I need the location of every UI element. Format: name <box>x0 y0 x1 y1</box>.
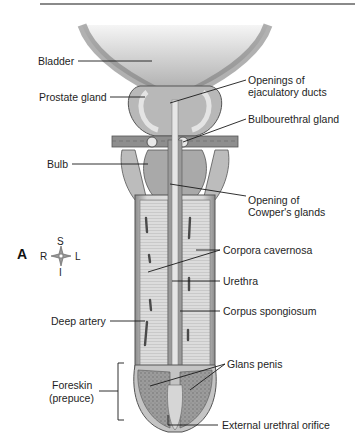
compass-right: R <box>40 251 47 262</box>
label-corpus-spongiosum: Corpus spongiosum <box>223 305 316 317</box>
compass-superior: S <box>57 236 64 247</box>
label-glans-penis: Glans penis <box>227 358 282 370</box>
label-corpora-cavernosa: Corpora cavernosa <box>223 244 312 256</box>
label-ejaculatory-ducts-1: Openings of <box>248 74 305 86</box>
label-cowper-1: Opening of <box>248 194 299 206</box>
label-urethra: Urethra <box>223 275 258 287</box>
orientation-compass <box>51 246 71 266</box>
label-foreskin-2: (prepuce) <box>49 392 94 404</box>
label-bladder: Bladder <box>38 55 74 67</box>
label-cowper-2: Cowper's glands <box>248 206 325 218</box>
panel-letter: A <box>17 246 27 262</box>
label-foreskin-1: Foreskin <box>52 379 92 391</box>
label-deep-artery: Deep artery <box>51 315 106 327</box>
label-bulbourethral-gland: Bulbourethral gland <box>248 113 339 125</box>
label-external-urethral-orifice: External urethral orifice <box>222 419 330 431</box>
compass-left: L <box>75 251 81 262</box>
label-bulb: Bulb <box>47 158 68 170</box>
label-prostate-gland: Prostate gland <box>39 91 107 103</box>
label-ejaculatory-ducts-2: ejaculatory ducts <box>248 86 327 98</box>
compass-inferior: I <box>59 267 62 278</box>
